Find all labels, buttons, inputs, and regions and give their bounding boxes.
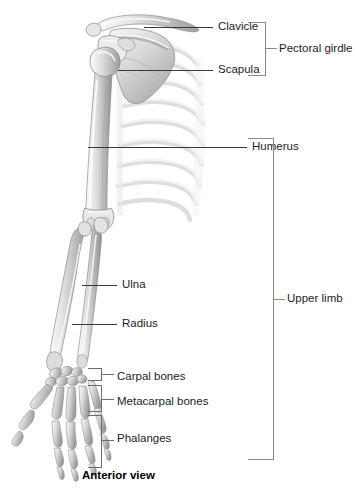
anatomy-figure: Clavicle Scapula Humerus Ulna Radius Car…: [0, 0, 355, 492]
label-upper-limb: Upper limb: [287, 293, 343, 305]
label-radius: Radius: [122, 318, 158, 330]
skeleton-illustration: [0, 0, 355, 492]
label-pectoral-girdle: Pectoral girdle: [279, 43, 353, 55]
bracket-carpal-bones: [88, 368, 102, 381]
label-metacarpal-bones: Metacarpal bones: [117, 396, 208, 408]
bracket-tick-pectoral-girdle: [266, 48, 277, 49]
bracket-upper-limb: [248, 138, 274, 460]
label-phalanges: Phalanges: [117, 433, 171, 445]
bracket-tick-metacarpal: [102, 399, 114, 400]
humerus-bone: [83, 47, 120, 231]
bracket-tick-phalanges: [102, 440, 114, 441]
bracket-metacarpal-bones: [88, 385, 102, 412]
bracket-tick-carpal: [102, 374, 114, 375]
label-carpal-bones: Carpal bones: [117, 371, 185, 383]
bracket-phalanges: [88, 415, 102, 468]
bracket-tick-upper-limb: [274, 299, 285, 300]
figure-caption: Anterior view: [82, 469, 155, 481]
label-ulna: Ulna: [122, 279, 146, 291]
bracket-pectoral-girdle: [248, 22, 266, 76]
